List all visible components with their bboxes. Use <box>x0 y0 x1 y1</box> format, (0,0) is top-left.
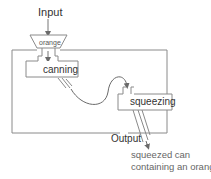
output-label: Output <box>111 134 141 144</box>
squeezing-label: squeezing <box>130 97 176 107</box>
canning-label: canning <box>43 65 78 75</box>
funnel-label: orange <box>39 39 61 46</box>
result-caption: squeezed can containing an orange <box>131 149 211 173</box>
result-line-2: containing an orange <box>131 161 211 173</box>
input-label: Input <box>38 7 62 18</box>
result-line-1: squeezed can <box>131 149 211 161</box>
